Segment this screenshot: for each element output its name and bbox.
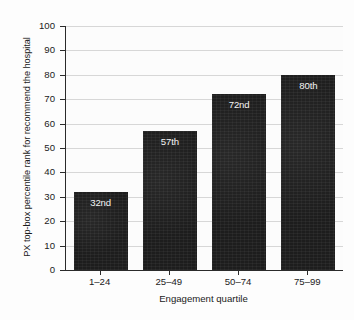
bar-value-label: 72nd: [212, 99, 266, 110]
x-axis-tick-label: 25–49: [129, 276, 209, 287]
y-axis-tick-label: 50: [15, 143, 55, 153]
x-axis-tick-mark: [238, 270, 239, 275]
plot-area: 32nd57th72nd80th: [65, 26, 343, 271]
y-axis-tick-label: 30: [15, 192, 55, 202]
y-axis-tick-label: 100: [15, 21, 55, 31]
y-axis-tick-label: 40: [15, 167, 55, 177]
bar: 32nd: [74, 192, 128, 270]
y-axis-tick-label: 80: [15, 70, 55, 80]
y-axis-tick-label: 10: [15, 241, 55, 251]
bar-value-label: 80th: [281, 80, 335, 91]
x-axis-tick-label: 1–24: [60, 276, 140, 287]
x-axis-tick-mark: [169, 270, 170, 275]
bar: 57th: [143, 131, 197, 270]
y-axis-tick-label: 60: [15, 119, 55, 129]
gridline: [66, 50, 343, 51]
y-axis-tick-label: 70: [15, 94, 55, 104]
y-axis-tick-label: 0: [15, 265, 55, 275]
y-axis-tick-label: 90: [15, 45, 55, 55]
x-axis-tick-label: 75–99: [267, 276, 347, 287]
gridline: [66, 26, 343, 27]
bar: 72nd: [212, 94, 266, 270]
bar: 80th: [281, 75, 335, 270]
x-axis-title: Engagement quartile: [65, 293, 342, 305]
y-axis-tick-label: 20: [15, 216, 55, 226]
bar-value-label: 32nd: [74, 197, 128, 208]
bar-value-label: 57th: [143, 136, 197, 147]
chart-figure: PX top-box percentile rank for recommend…: [0, 0, 354, 320]
x-axis-tick-mark: [100, 270, 101, 275]
x-axis-tick-label: 50–74: [198, 276, 278, 287]
x-axis-tick-mark: [307, 270, 308, 275]
